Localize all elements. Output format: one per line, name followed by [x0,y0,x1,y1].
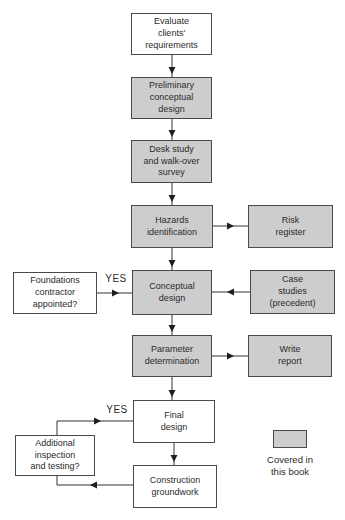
legend-covered-swatch [273,430,307,448]
arrowhead [112,290,119,297]
edge-additional-inspection-to-final-design [57,418,133,436]
edge-conceptual-to-parameter [169,315,176,335]
flowchart: Evaluate clients' requirements Prelimina… [0,0,345,520]
arrowhead [169,325,176,332]
edge-final-design-to-construction [171,443,178,465]
edge-foundations-to-conceptual [97,290,132,297]
node-label: Preliminary conceptual design [149,80,194,115]
edge-case-studies-to-conceptual [212,289,250,296]
edge-desk-study-to-hazards [169,183,176,205]
node-preliminary-conceptual-design: Preliminary conceptual design [131,77,212,119]
legend-label: Covered in this book [255,454,325,478]
arrowhead [171,455,178,462]
arrowhead [169,260,176,267]
node-label: Conceptual design [149,281,195,304]
node-final-design: Final design [133,400,215,443]
edge-parameter-to-write-report [212,353,248,360]
node-label: Write report [278,344,302,367]
node-label: Case studies (precedent) [269,274,315,309]
node-label: Hazards identification [147,215,197,238]
arrowhead [227,289,234,296]
arrowhead [169,195,176,202]
node-evaluate-clients-requirements: Evaluate clients' requirements [131,13,212,55]
node-label: Additional inspection and testing? [30,438,79,473]
edge-label-yes-foundations: YES [99,273,133,284]
node-label: Final design [161,410,188,433]
node-desk-study-walk-over-survey: Desk study and walk-over survey [131,140,212,183]
edge-evaluate-to-preliminary [169,55,176,77]
node-additional-inspection-testing: Additional inspection and testing? [15,435,95,476]
edge-hazards-to-risk-register [213,223,248,230]
edge-preliminary-to-desk-study [169,119,176,140]
node-label: Construction groundwork [150,475,201,498]
node-label: Desk study and walk-over survey [143,144,199,179]
arrowhead [169,130,176,137]
node-label: Risk register [275,215,305,238]
node-parameter-determination: Parameter determination [132,335,212,377]
node-case-studies-precedent: Case studies (precedent) [250,270,335,314]
edge-hazards-to-conceptual [169,248,176,270]
node-risk-register: Risk register [248,205,333,248]
node-hazards-identification: Hazards identification [131,205,213,248]
edge-construction-to-additional-inspection [57,476,133,489]
arrowhead [169,390,176,397]
node-label: Evaluate clients' requirements [145,16,198,51]
arrowhead [94,418,101,425]
node-label: Parameter determination [145,344,200,367]
node-write-report: Write report [248,335,332,377]
edge-parameter-to-final-design [169,377,176,400]
node-construction-groundwork: Construction groundwork [133,465,217,508]
arrowhead [227,223,234,230]
arrowhead [90,482,97,489]
node-conceptual-design: Conceptual design [132,270,212,315]
node-foundations-contractor-appointed: Foundations contractor appointed? [13,272,97,314]
arrowhead [227,353,234,360]
arrowhead [169,67,176,74]
node-label: Foundations contractor appointed? [30,275,80,310]
edge-label-yes-inspection: YES [100,404,134,415]
